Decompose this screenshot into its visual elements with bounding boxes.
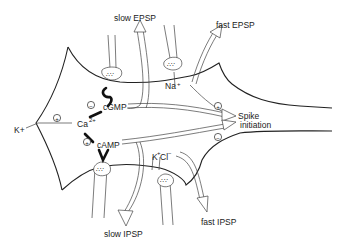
label-camp: cAMP xyxy=(97,140,120,150)
terminal-fast-ipsp-presynaptic: ∴∵ xyxy=(158,174,174,225)
transmitter-to-camp-arrow xyxy=(99,150,108,160)
fast-ipsp-arrowhead xyxy=(197,196,208,212)
svg-text:−: − xyxy=(168,150,172,156)
spike-excitatory-arrowhead xyxy=(222,109,236,121)
label-fast-epsp: fast EPSP xyxy=(216,20,255,30)
synaptic-integration-diagram: ∴∵ ∴∵ ∴∵ ∴∵ − + + xyxy=(0,0,344,250)
slow-ipsp-arrowhead xyxy=(118,210,133,226)
svg-text:Ca: Ca xyxy=(77,119,88,129)
sign-minus-spike: − xyxy=(214,133,221,140)
fast-ipsp-pathway xyxy=(176,152,204,200)
label-initiation: initiation xyxy=(240,120,271,130)
label-k-cl: K + Cl − xyxy=(152,150,172,162)
svg-text:∴∵: ∴∵ xyxy=(160,177,168,183)
sign-plus-camp: + xyxy=(83,138,90,145)
sign-minus-cgmp: − xyxy=(87,101,94,108)
terminal-slow-epsp-presynaptic: ∴∵ xyxy=(102,35,122,80)
fast-epsp-pathway xyxy=(192,30,219,84)
svg-text:+: + xyxy=(85,140,89,146)
svg-text:+: + xyxy=(177,81,181,87)
label-potassium: K+ xyxy=(14,125,25,135)
svg-text:Cl: Cl xyxy=(160,152,168,162)
label-calcium: Ca 2+ xyxy=(77,117,96,129)
k-efflux-arrow xyxy=(26,123,38,128)
ipsp-to-spike-pathway xyxy=(122,124,225,144)
svg-text:+: + xyxy=(55,116,59,122)
label-slow-ipsp: slow IPSP xyxy=(104,229,143,239)
neuron-outline-left xyxy=(36,47,68,190)
terminal-slow-ipsp-presynaptic: ∴∵ xyxy=(92,162,111,218)
slow-ipsp-pathway xyxy=(124,142,144,212)
svg-text:+: + xyxy=(216,104,220,110)
terminal-fast-epsp-presynaptic: ∴∵ xyxy=(164,25,182,70)
svg-text:Na: Na xyxy=(165,81,176,91)
label-cgmp: cGMP xyxy=(103,102,127,112)
sign-plus-calcium-k: + xyxy=(53,114,60,121)
slow-epsp-pathway xyxy=(127,30,149,108)
svg-text:∴∵: ∴∵ xyxy=(167,61,175,67)
svg-text:∴∵: ∴∵ xyxy=(106,71,114,77)
label-sodium: Na + xyxy=(165,81,181,91)
svg-text:∴∵: ∴∵ xyxy=(96,166,104,172)
label-slow-epsp: slow EPSP xyxy=(114,13,156,23)
svg-text:−: − xyxy=(89,103,93,109)
label-fast-ipsp: fast IPSP xyxy=(201,217,237,227)
svg-text:2+: 2+ xyxy=(89,117,96,123)
sign-plus-spike: + xyxy=(214,102,221,109)
spike-inhibitory-arrowhead xyxy=(222,120,236,130)
svg-text:−: − xyxy=(216,135,220,141)
